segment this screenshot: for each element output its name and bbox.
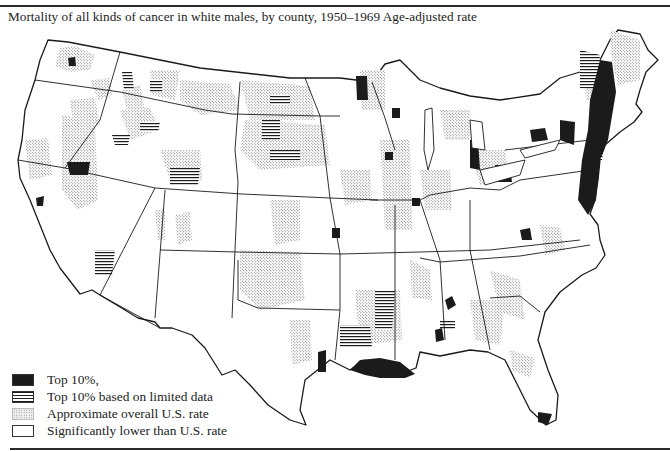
- top10-swatch-icon: [12, 374, 34, 386]
- legend-item-approx-us-rate: Approximate overall U.S. rate: [12, 405, 227, 422]
- stipple-swatch-icon: [12, 408, 34, 420]
- white-swatch-icon: [12, 425, 34, 437]
- legend-item-top10-limited: Top 10% based on limited data: [12, 388, 227, 405]
- legend-item-top10: Top 10%,: [12, 371, 227, 388]
- legend-label: Top 10%,: [47, 372, 99, 388]
- hatched-swatch-icon: [12, 391, 34, 403]
- legend-label: Approximate overall U.S. rate: [47, 406, 209, 422]
- bottom-rule: [10, 448, 670, 450]
- legend-label: Top 10% based on limited data: [47, 389, 213, 405]
- legend-item-lower-rate: Significantly lower than U.S. rate: [12, 422, 227, 439]
- us-outline: [18, 30, 658, 425]
- legend-label: Significantly lower than U.S. rate: [47, 423, 227, 439]
- legend: Top 10%, Top 10% based on limited data A…: [12, 371, 227, 439]
